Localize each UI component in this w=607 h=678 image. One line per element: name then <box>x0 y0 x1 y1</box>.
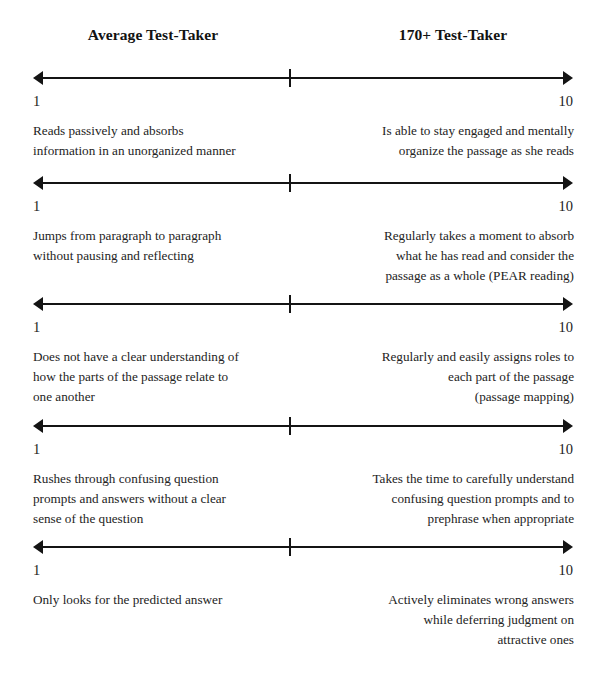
scale-high-label: 10 <box>559 319 574 336</box>
description-left-2: Jumps from paragraph to paragraph withou… <box>33 226 285 286</box>
scale-low-label: 1 <box>33 319 40 336</box>
spectrum-diagram-page: Average Test-Taker 170+ Test-Taker 1 10 … <box>0 0 607 678</box>
description-line: attractive ones <box>322 630 574 650</box>
description-line: passage as a whole (PEAR reading) <box>322 266 574 286</box>
description-line: what he has read and consider the <box>322 246 574 266</box>
description-line: Takes the time to carefully understand <box>322 469 574 489</box>
description-line: Actively eliminates wrong answers <box>322 590 574 610</box>
description-line: without pausing and reflecting <box>33 246 285 266</box>
spectrum-row-2: 1 10 Jumps from paragraph to paragraph w… <box>0 173 607 286</box>
descriptions-4: Rushes through confusing question prompt… <box>0 469 607 529</box>
spectrum-axis-4 <box>0 416 607 436</box>
spectrum-axis-2 <box>0 173 607 193</box>
scale-high-label: 10 <box>559 93 574 110</box>
column-headers: Average Test-Taker 170+ Test-Taker <box>33 26 573 52</box>
column-header-170-test-taker: 170+ Test-Taker <box>333 26 573 44</box>
midpoint-tick <box>289 295 291 313</box>
scale-labels-5: 1 10 <box>0 562 607 584</box>
scale-labels-1: 1 10 <box>0 93 607 115</box>
arrow-right-icon <box>563 419 573 433</box>
axis-line <box>40 303 566 305</box>
midpoint-tick <box>289 69 291 87</box>
scale-high-label: 10 <box>559 562 574 579</box>
midpoint-tick <box>289 417 291 435</box>
description-line: Only looks for the predicted answer <box>33 590 285 610</box>
scale-low-label: 1 <box>33 93 40 110</box>
description-right-1: Is able to stay engaged and mentally org… <box>322 121 574 161</box>
descriptions-2: Jumps from paragraph to paragraph withou… <box>0 226 607 286</box>
arrow-right-icon <box>563 176 573 190</box>
description-line: sense of the question <box>33 509 285 529</box>
scale-low-label: 1 <box>33 441 40 458</box>
description-left-1: Reads passively and absorbs information … <box>33 121 285 161</box>
spectrum-row-1: 1 10 Reads passively and absorbs informa… <box>0 68 607 161</box>
description-right-4: Takes the time to carefully understand c… <box>322 469 574 529</box>
scale-labels-2: 1 10 <box>0 198 607 220</box>
description-line: Is able to stay engaged and mentally <box>322 121 574 141</box>
scale-low-label: 1 <box>33 198 40 215</box>
description-right-2: Regularly takes a moment to absorb what … <box>322 226 574 286</box>
description-line: Jumps from paragraph to paragraph <box>33 226 285 246</box>
spectrum-axis-1 <box>0 68 607 88</box>
scale-high-label: 10 <box>559 198 574 215</box>
description-line: how the parts of the passage relate to <box>33 367 285 387</box>
description-line: (passage mapping) <box>322 387 574 407</box>
description-line: prephrase when appropriate <box>322 509 574 529</box>
axis-line <box>40 546 566 548</box>
description-left-3: Does not have a clear understanding of h… <box>33 347 285 407</box>
description-line: organize the passage as she reads <box>322 141 574 161</box>
midpoint-tick <box>289 174 291 192</box>
arrow-right-icon <box>563 540 573 554</box>
description-line: Regularly and easily assigns roles to <box>322 347 574 367</box>
spectrum-row-5: 1 10 Only looks for the predicted answer… <box>0 537 607 650</box>
spectrum-axis-3 <box>0 294 607 314</box>
description-right-5: Actively eliminates wrong answers while … <box>322 590 574 650</box>
description-line: each part of the passage <box>322 367 574 387</box>
spectrum-row-4: 1 10 Rushes through confusing question p… <box>0 416 607 529</box>
description-line: one another <box>33 387 285 407</box>
arrow-right-icon <box>563 71 573 85</box>
arrow-right-icon <box>563 297 573 311</box>
scale-labels-4: 1 10 <box>0 441 607 463</box>
column-header-average-test-taker: Average Test-Taker <box>33 26 273 44</box>
midpoint-tick <box>289 538 291 556</box>
description-line: Regularly takes a moment to absorb <box>322 226 574 246</box>
description-line: while deferring judgment on <box>322 610 574 630</box>
descriptions-5: Only looks for the predicted answer Acti… <box>0 590 607 650</box>
descriptions-1: Reads passively and absorbs information … <box>0 121 607 161</box>
descriptions-3: Does not have a clear understanding of h… <box>0 347 607 407</box>
spectrum-row-3: 1 10 Does not have a clear understanding… <box>0 294 607 407</box>
description-left-4: Rushes through confusing question prompt… <box>33 469 285 529</box>
description-right-3: Regularly and easily assigns roles to ea… <box>322 347 574 407</box>
axis-line <box>40 182 566 184</box>
description-line: Reads passively and absorbs <box>33 121 285 141</box>
axis-line <box>40 425 566 427</box>
axis-line <box>40 77 566 79</box>
description-line: confusing question prompts and to <box>322 489 574 509</box>
description-line: Does not have a clear understanding of <box>33 347 285 367</box>
description-line: Rushes through confusing question <box>33 469 285 489</box>
scale-labels-3: 1 10 <box>0 319 607 341</box>
scale-low-label: 1 <box>33 562 40 579</box>
description-line: prompts and answers without a clear <box>33 489 285 509</box>
description-left-5: Only looks for the predicted answer <box>33 590 285 650</box>
scale-high-label: 10 <box>559 441 574 458</box>
description-line: information in an unorganized manner <box>33 141 285 161</box>
spectrum-axis-5 <box>0 537 607 557</box>
